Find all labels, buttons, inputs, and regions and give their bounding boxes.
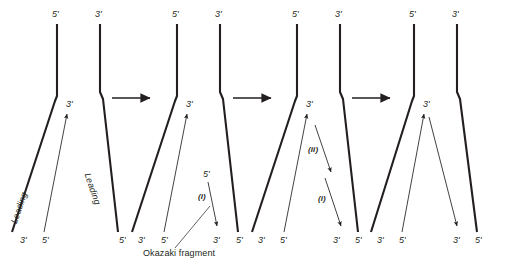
panel-2-top-label-3prime: 3' — [215, 10, 222, 19]
panel-3-top-label-5prime: 5' — [292, 10, 299, 19]
panel-4-bottom-label-5prime-left: 5' — [399, 236, 406, 245]
panel-4-top-label-3prime: 3' — [452, 10, 459, 19]
panel-4-top-label-5prime: 5' — [409, 10, 416, 19]
panel-1-template-right-strand — [100, 24, 118, 232]
figure-canvas — [0, 0, 509, 269]
panel-3-bottom-label-5prime-left: 5' — [280, 236, 287, 245]
replication-fork-figure: 5' 3' 3' Leading Leading 3' 5' 5' 5' 3' … — [0, 0, 509, 269]
panel-4-bottom-label-5prime-right: 5' — [475, 236, 482, 245]
panel-2-template-right-strand — [220, 24, 238, 232]
panel-2-leading-daughter-strand — [164, 114, 187, 232]
panel-1-bottom-label-5prime-right: 5' — [119, 236, 126, 245]
panel-4-bottom-label-3prime-left: 3' — [377, 236, 384, 245]
panel-1-leading-daughter-strand — [44, 114, 67, 232]
panel-2-fork-label-3prime: 3' — [186, 100, 193, 109]
panel-4-template-right-strand — [457, 24, 477, 232]
panel-4-bottom-label-3prime-right: 3' — [453, 236, 460, 245]
panel-2-okazaki-fragment-i — [208, 182, 217, 226]
panel-3-bottom-label-3prime-left: 3' — [258, 236, 265, 245]
panel-1-bottom-label-3prime-left: 3' — [20, 236, 27, 245]
panel-2-okazaki-label-5prime: 5' — [203, 170, 210, 179]
panel-3-okazaki-fragment-i — [325, 178, 341, 226]
panel-2-bottom-label-3prime-right: 3' — [213, 236, 220, 245]
panel-3-top-label-3prime: 3' — [335, 10, 342, 19]
panel-3-okazaki-marker-i: (i) — [318, 195, 326, 203]
panel-3-group — [252, 24, 358, 232]
panel-3-template-right-strand — [340, 24, 358, 232]
panel-4-leading-daughter-strand — [402, 114, 424, 232]
panel-3-fork-label-3prime: 3' — [306, 100, 313, 109]
panel-2-top-label-5prime: 5' — [172, 10, 179, 19]
panel-2-bottom-label-5prime-right: 5' — [236, 236, 243, 245]
panel-4-fork-label-3prime: 3' — [423, 100, 430, 109]
panel-3-bottom-label-3prime-right: 3' — [333, 236, 340, 245]
panel-3-bottom-label-5prime-right: 5' — [355, 236, 362, 245]
panel-4-group — [371, 24, 477, 232]
okazaki-fragment-caption: Okazaki fragment — [143, 249, 215, 258]
panel-1-top-label-3prime: 3' — [95, 10, 102, 19]
panel-2-group — [132, 24, 238, 248]
panel-1-fork-label-3prime: 3' — [66, 100, 73, 109]
panel-4-joined-lagging-strand — [429, 117, 457, 226]
panel-1-bottom-label-5prime-mid: 5' — [42, 236, 49, 245]
panel-1-top-label-5prime: 5' — [52, 10, 59, 19]
panel-2-okazaki-marker-i: (i) — [198, 193, 206, 201]
panel-2-bottom-label-3prime-left: 3' — [138, 236, 145, 245]
panel-2-okazaki-leader-line — [175, 206, 210, 248]
panel-3-okazaki-marker-ii: (ii) — [308, 146, 318, 154]
panel-3-leading-daughter-strand — [284, 114, 307, 232]
panel-2-bottom-label-5prime-left: 5' — [161, 236, 168, 245]
